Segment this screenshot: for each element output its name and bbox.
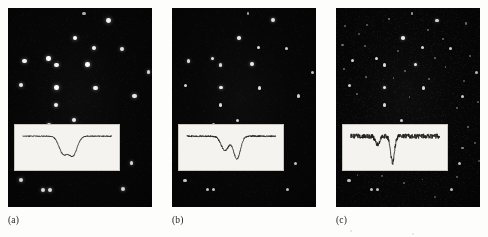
star-point xyxy=(85,62,90,67)
star-point xyxy=(376,188,379,191)
star-point xyxy=(41,188,45,192)
star-point xyxy=(365,76,367,78)
star-point xyxy=(130,161,134,165)
panel-b-caption: (b) xyxy=(172,216,184,226)
star-point xyxy=(469,55,471,57)
star-point xyxy=(463,80,465,82)
star-point xyxy=(347,179,350,182)
star-point xyxy=(236,119,239,122)
star-point xyxy=(478,160,480,162)
star-point xyxy=(120,47,124,51)
star-point xyxy=(106,18,111,23)
star-point xyxy=(375,57,378,60)
star-point xyxy=(54,63,58,67)
panel-c-inset-spectrum xyxy=(342,124,448,171)
star-point xyxy=(403,182,405,184)
star-point xyxy=(147,70,151,74)
star-point xyxy=(54,85,59,90)
panel-b-sky-field xyxy=(172,8,316,207)
star-point xyxy=(311,71,314,74)
star-point xyxy=(475,71,478,74)
star-point xyxy=(414,63,418,67)
star-point xyxy=(19,178,23,182)
panel-c: (c) xyxy=(336,0,486,237)
star-point xyxy=(247,12,250,15)
star-point xyxy=(22,59,26,63)
star-point xyxy=(449,47,452,50)
star-point xyxy=(72,118,76,122)
star-point xyxy=(370,188,373,191)
star-point xyxy=(212,188,215,191)
star-point xyxy=(383,86,387,90)
star-point xyxy=(393,77,395,79)
star-point xyxy=(409,96,411,98)
star-point xyxy=(73,36,78,41)
star-point xyxy=(257,46,260,49)
star-point xyxy=(422,179,424,181)
panel-b-vignette xyxy=(172,8,316,207)
panel-b: (b) xyxy=(172,0,322,237)
star-point xyxy=(219,63,223,67)
star-point xyxy=(132,94,136,98)
star-point xyxy=(121,187,125,191)
star-point xyxy=(358,33,360,35)
page-speck xyxy=(350,230,352,232)
star-point xyxy=(397,50,399,52)
star-point xyxy=(343,68,345,70)
star-point xyxy=(422,86,425,89)
star-point xyxy=(82,12,85,15)
star-point xyxy=(351,59,354,62)
star-point xyxy=(381,175,383,177)
star-point xyxy=(458,162,461,165)
star-point xyxy=(474,142,476,144)
panel-c-caption: (c) xyxy=(336,216,347,226)
star-point xyxy=(456,176,458,178)
star-point xyxy=(46,56,50,60)
star-point xyxy=(465,22,467,24)
star-point xyxy=(92,46,96,50)
star-point xyxy=(48,188,52,192)
star-point xyxy=(271,18,275,22)
panel-a-inset-spectrum xyxy=(14,124,120,171)
star-point xyxy=(401,36,405,40)
star-point xyxy=(364,45,366,47)
star-point xyxy=(237,36,241,40)
star-point xyxy=(348,84,351,87)
star-point xyxy=(183,179,186,182)
star-point xyxy=(388,18,390,20)
star-point xyxy=(344,25,346,27)
star-point xyxy=(341,44,343,46)
panel-c-vignette xyxy=(336,8,480,207)
star-point xyxy=(366,24,368,26)
panel-b-inset-spectrum xyxy=(178,124,284,171)
star-point xyxy=(450,188,453,191)
star-point xyxy=(435,19,439,23)
panel-a-caption: (a) xyxy=(8,216,19,226)
star-point xyxy=(184,84,187,87)
star-point xyxy=(356,93,358,95)
star-point xyxy=(297,94,300,97)
panel-a-vignette xyxy=(8,8,152,207)
star-point xyxy=(294,162,297,165)
star-point xyxy=(258,86,261,89)
star-point xyxy=(442,38,444,40)
star-point xyxy=(357,174,359,176)
star-point xyxy=(461,95,464,98)
star-point xyxy=(477,101,479,103)
star-point xyxy=(383,63,386,66)
star-point xyxy=(434,57,436,59)
star-point xyxy=(250,62,254,66)
figure-root: (a)(b)(c) xyxy=(0,0,488,237)
panel-c-sky-field xyxy=(336,8,480,207)
star-point xyxy=(93,86,97,90)
star-point xyxy=(206,188,209,191)
star-point xyxy=(411,12,413,14)
star-point xyxy=(427,29,429,31)
star-point xyxy=(421,46,424,49)
star-point xyxy=(461,147,463,149)
star-point xyxy=(383,103,386,106)
star-point xyxy=(285,47,288,50)
panel-a-sky-field xyxy=(8,8,152,207)
star-point xyxy=(19,83,23,87)
star-point xyxy=(467,126,469,128)
